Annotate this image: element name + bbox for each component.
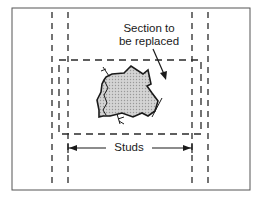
section-to-be-replaced-label: Section to be replaced	[113, 22, 185, 48]
studs-label: Studs	[106, 141, 152, 154]
label-line-1: Section to	[113, 22, 185, 35]
label-line-2: be replaced	[113, 35, 185, 48]
damaged-area	[97, 66, 162, 124]
callout-arrow	[153, 49, 167, 80]
